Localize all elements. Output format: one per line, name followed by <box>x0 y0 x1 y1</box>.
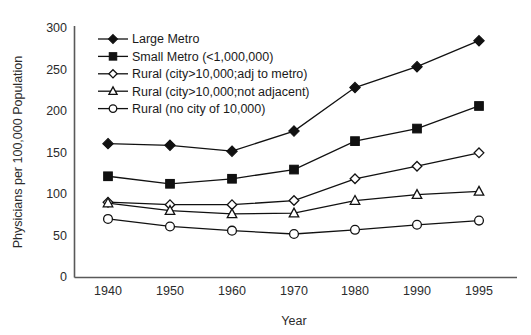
data-point-filled-diamond <box>350 82 360 92</box>
physicians-line-chart: 300 250 200 150 100 50 0 1940 1950 1960 … <box>0 0 531 335</box>
data-point-open-circle <box>166 222 175 231</box>
data-point-open-circle <box>228 226 237 235</box>
data-point-open-diamond <box>474 148 484 158</box>
legend-item-1: Small Metro (<1,000,000) <box>98 50 273 64</box>
data-point-filled-diamond <box>165 140 175 150</box>
legend-label: Rural (no city of 10,000) <box>132 102 265 116</box>
legend-label: Rural (city>10,000;not adjacent) <box>132 85 310 99</box>
data-point-open-circle <box>475 216 484 225</box>
data-point-filled-square <box>475 102 484 111</box>
x-tick-label: 1990 <box>403 284 431 298</box>
series-layer <box>103 36 484 239</box>
data-point-open-circle <box>413 220 422 229</box>
x-tick-label: 1940 <box>94 284 122 298</box>
data-point-open-triangle <box>474 186 484 195</box>
y-axis-title: Physicians per 100,000 Population <box>11 56 25 249</box>
legend-item-3: Rural (city>10,000;not adjacent) <box>98 85 310 99</box>
data-point-filled-diamond <box>289 126 299 136</box>
data-point-filled-square <box>228 174 237 183</box>
x-axis-ticks: 1940 1950 1960 1970 1980 1990 1995 <box>94 284 493 298</box>
x-tick-label: 1950 <box>156 284 184 298</box>
y-tick-label: 50 <box>53 229 67 243</box>
data-point-filled-square <box>109 53 116 60</box>
x-tick-label: 1960 <box>218 284 246 298</box>
data-point-filled-square <box>104 172 113 181</box>
x-tick-label: 1980 <box>341 284 369 298</box>
data-point-filled-square <box>166 179 175 188</box>
y-tick-label: 150 <box>46 146 67 160</box>
y-axis-ticks: 300 250 200 150 100 50 0 <box>46 21 67 284</box>
data-point-open-diamond <box>412 161 422 171</box>
x-tick-label: 1995 <box>465 284 493 298</box>
legend-label: Rural (city>10,000;adj to metro) <box>132 67 307 81</box>
data-point-open-circle <box>109 105 117 113</box>
chart-canvas: 300 250 200 150 100 50 0 1940 1950 1960 … <box>0 0 531 335</box>
data-point-open-circle <box>351 225 360 234</box>
series-4 <box>104 215 484 239</box>
x-tick-label: 1970 <box>280 284 308 298</box>
data-point-filled-diamond <box>227 146 237 156</box>
y-tick-label: 250 <box>46 63 67 77</box>
legend-item-2: Rural (city>10,000;adj to metro) <box>98 67 307 81</box>
data-point-filled-square <box>351 137 360 146</box>
series-2 <box>103 148 484 209</box>
y-tick-label: 0 <box>60 270 67 284</box>
chart-legend: Large MetroSmall Metro (<1,000,000)Rural… <box>98 32 310 116</box>
data-point-open-circle <box>290 230 299 239</box>
data-point-filled-diamond <box>103 138 113 148</box>
legend-label: Small Metro (<1,000,000) <box>132 50 273 64</box>
y-tick-label: 200 <box>46 104 67 118</box>
y-tick-label: 100 <box>46 187 67 201</box>
data-point-filled-diamond <box>474 36 484 46</box>
data-point-filled-diamond <box>412 61 422 71</box>
legend-item-4: Rural (no city of 10,000) <box>98 102 265 116</box>
data-point-open-diamond <box>109 70 117 78</box>
y-tick-label: 300 <box>46 21 67 35</box>
data-point-open-diamond <box>350 174 360 184</box>
x-axis-title: Year <box>281 314 306 328</box>
data-point-open-circle <box>104 215 113 224</box>
data-point-filled-diamond <box>109 35 118 44</box>
data-point-filled-square <box>290 165 299 174</box>
legend-label: Large Metro <box>132 32 199 46</box>
data-point-filled-square <box>413 124 422 133</box>
data-point-open-diamond <box>289 196 299 206</box>
legend-item-0: Large Metro <box>98 32 199 46</box>
